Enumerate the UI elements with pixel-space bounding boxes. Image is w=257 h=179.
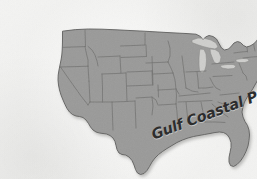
us-map-figure: Gulf Coastal Plain <box>40 16 217 163</box>
screenshot-root: Gulf Coastal Plain <box>0 0 257 179</box>
us-map-svg <box>40 16 257 179</box>
map-halftone-grain <box>40 16 257 179</box>
